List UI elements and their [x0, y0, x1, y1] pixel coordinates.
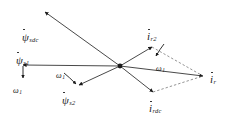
label-i-r2: ir2 [147, 27, 157, 43]
i-r-subscript: r [214, 78, 217, 85]
psi-sdc-vector [45, 12, 120, 66]
label-i-r: ir [210, 70, 216, 86]
psi-s2-symbol: ψ [62, 95, 69, 106]
omega-1-left-symbol: ω [13, 86, 19, 95]
omega-1-center-symbol: ω [56, 71, 62, 80]
label-omega-1-right: ω1 [156, 58, 165, 74]
vector-phasor-diagram: ψsdc ψs1 ψs2 ω1 ω1 ω1 ir2 irdc ir [0, 0, 236, 123]
label-omega-1-left: ω1 [13, 80, 22, 96]
omega-1-right-subscript: 1 [162, 67, 165, 73]
i-r2-symbol: i [147, 31, 150, 42]
psi-s1-symbol: ψ [16, 55, 23, 66]
psi-s1-vector [23, 65, 120, 66]
omega-1-left-subscript: 1 [19, 89, 22, 95]
psi-s1-subscript: s1 [23, 59, 29, 66]
i-rdc-subscript: rdc [153, 107, 162, 114]
psi-sdc-symbol: ψ [22, 32, 29, 43]
label-psi-sdc: ψsdc [22, 28, 39, 44]
label-i-rdc: irdc [149, 99, 162, 115]
label-omega-1-center: ω1 [56, 65, 65, 81]
diagram-canvas [0, 0, 236, 123]
omega-1-center-arrow [64, 73, 76, 84]
omega-1-right-symbol: ω [156, 64, 162, 73]
psi-sdc-subscript: sdc [29, 36, 38, 43]
psi-s2-vector [79, 66, 120, 85]
label-psi-s2: ψs2 [62, 91, 76, 107]
i-rdc-vector [120, 66, 153, 92]
i-r2-vector [120, 47, 152, 66]
i-rdc-symbol: i [149, 103, 152, 114]
omega-1-center-subscript: 1 [62, 74, 65, 80]
label-psi-s1: ψs1 [16, 51, 30, 67]
parallelogram-side-bottom [153, 76, 203, 92]
i-r2-subscript: r2 [151, 35, 157, 42]
psi-s2-subscript: s2 [69, 99, 75, 106]
i-r-symbol: i [210, 74, 213, 85]
origin-node [118, 64, 123, 69]
